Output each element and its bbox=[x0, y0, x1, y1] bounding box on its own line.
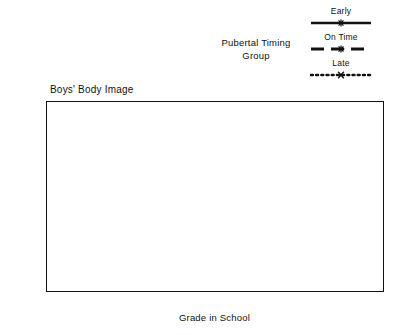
axes-layer bbox=[47, 102, 384, 292]
x-axis-label: Grade in School bbox=[46, 312, 383, 323]
chart-figure: Pubertal Timing Group Early On Time bbox=[0, 0, 407, 335]
plot-area bbox=[0, 0, 407, 335]
plot-frame bbox=[47, 102, 384, 292]
